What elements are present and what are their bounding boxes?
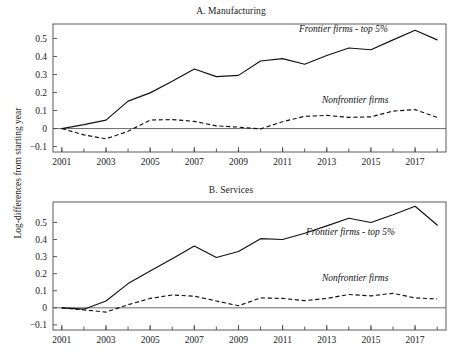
plot-frame bbox=[53, 202, 446, 330]
y-tick-label: 0.4 bbox=[35, 52, 47, 62]
y-tick-label: 0.5 bbox=[35, 218, 47, 228]
y-tick-label: 0.3 bbox=[35, 252, 47, 262]
x-tick-label: 2013 bbox=[317, 157, 336, 167]
y-axis-label: Log-differences from starting year bbox=[13, 73, 23, 273]
y-tick-label: 0.5 bbox=[35, 34, 47, 44]
series-line-nonfrontier bbox=[62, 293, 437, 312]
x-tick-label: 2007 bbox=[185, 157, 204, 167]
x-tick-label: 2009 bbox=[229, 157, 248, 167]
plot-frame bbox=[53, 24, 446, 152]
panel-services: B. Services −0.100.10.20.30.40.520012003… bbox=[0, 179, 462, 358]
y-tick-label: 0 bbox=[42, 124, 47, 134]
y-tick-label: 0.3 bbox=[35, 70, 47, 80]
y-tick-label: 0.1 bbox=[35, 286, 47, 296]
x-tick-label: 2017 bbox=[406, 335, 425, 345]
x-tick-label: 2015 bbox=[361, 157, 380, 167]
y-tick-label: −0.1 bbox=[30, 142, 47, 152]
y-tick-label: 0.2 bbox=[35, 88, 47, 98]
annotation-nonfrontier-firms: Nonfrontier firms bbox=[321, 273, 389, 283]
x-tick-label: 2009 bbox=[229, 335, 248, 345]
x-tick-label: 2013 bbox=[317, 335, 336, 345]
x-tick-label: 2005 bbox=[141, 335, 160, 345]
panel-manufacturing: A. Manufacturing −0.100.10.20.30.40.5200… bbox=[0, 0, 462, 179]
x-tick-label: 2001 bbox=[52, 335, 71, 345]
x-tick-label: 2015 bbox=[361, 335, 380, 345]
series-line-nonfrontier bbox=[62, 110, 437, 139]
plot-area-manufacturing: −0.100.10.20.30.40.520012003200520072009… bbox=[0, 0, 462, 179]
y-tick-label: 0 bbox=[42, 303, 47, 313]
x-tick-label: 2001 bbox=[52, 157, 71, 167]
x-tick-label: 2005 bbox=[141, 157, 160, 167]
y-tick-label: 0.4 bbox=[35, 235, 47, 245]
annotation-frontier-firms: Frontier firms - top 5% bbox=[305, 227, 395, 237]
plot-area-services: −0.100.10.20.30.40.520012003200520072009… bbox=[0, 179, 462, 358]
x-tick-label: 2011 bbox=[273, 335, 292, 345]
figure-root: A. Manufacturing −0.100.10.20.30.40.5200… bbox=[0, 0, 462, 358]
annotation-nonfrontier-firms: Nonfrontier firms bbox=[321, 95, 389, 105]
y-tick-label: 0.1 bbox=[35, 106, 47, 116]
x-tick-label: 2017 bbox=[406, 157, 425, 167]
x-tick-label: 2011 bbox=[273, 157, 292, 167]
annotation-frontier-firms: Frontier firms - top 5% bbox=[298, 24, 388, 34]
x-tick-label: 2003 bbox=[96, 335, 115, 345]
y-tick-label: 0.2 bbox=[35, 269, 47, 279]
series-line-frontier bbox=[62, 206, 437, 309]
y-tick-label: −0.1 bbox=[30, 320, 47, 330]
x-tick-label: 2007 bbox=[185, 335, 204, 345]
x-tick-label: 2003 bbox=[96, 157, 115, 167]
